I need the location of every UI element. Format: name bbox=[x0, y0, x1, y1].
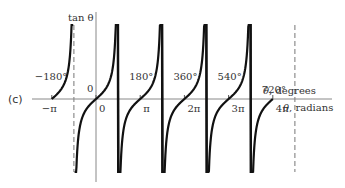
radian-tick-labels: −π0π2π3π4π bbox=[42, 103, 289, 114]
x-axis-label-degrees: θ, degrees bbox=[263, 85, 316, 96]
radians-text: , radians bbox=[289, 102, 333, 113]
y-axis-label: tan θ bbox=[68, 12, 94, 23]
x-axis-label-radians: θ, radians bbox=[283, 102, 333, 113]
panel-label: (c) bbox=[8, 93, 23, 106]
degree-tick-labels: −180°0180°360°540°720° bbox=[35, 71, 286, 95]
degree-tick-label: 540° bbox=[218, 71, 242, 82]
radian-tick-label: −π bbox=[42, 103, 57, 114]
radian-tick-label: 2π bbox=[187, 103, 200, 114]
degree-tick-label: 180° bbox=[129, 71, 153, 82]
radian-tick-label: 3π bbox=[232, 103, 245, 114]
degrees-text: , degrees bbox=[269, 85, 316, 96]
tangent-chart: tan θ (c) −180°0180°360°540°720° −π0π2π3… bbox=[0, 0, 345, 188]
radian-tick-label: π bbox=[143, 103, 150, 114]
tangent-branch bbox=[52, 25, 73, 99]
degree-tick-label: 0 bbox=[87, 83, 93, 94]
degree-tick-label: −180° bbox=[35, 71, 67, 82]
radian-tick-label: 0 bbox=[99, 103, 105, 114]
degree-tick-label: 360° bbox=[173, 71, 197, 82]
